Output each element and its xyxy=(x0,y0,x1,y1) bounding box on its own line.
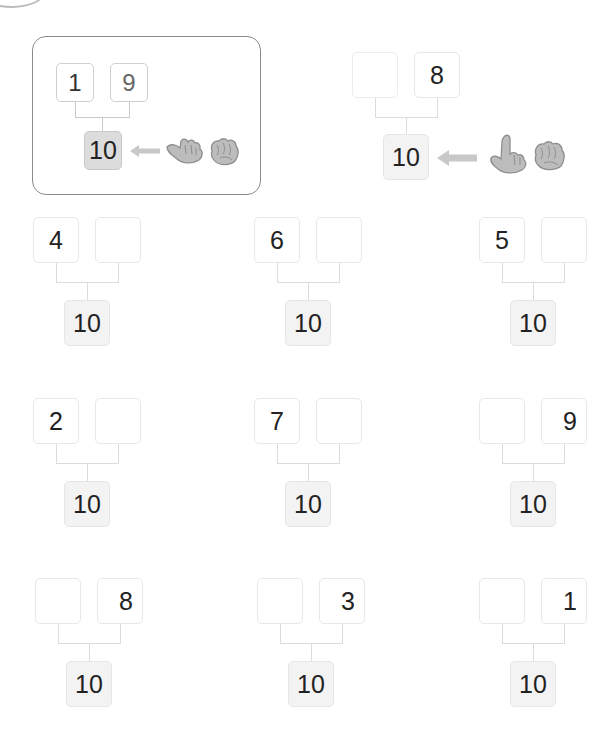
whole-box: 10 xyxy=(288,661,334,707)
part-box-right: 1 xyxy=(541,578,587,624)
connector-line xyxy=(339,444,340,464)
connector-line xyxy=(502,444,503,464)
whole-box: 10 xyxy=(64,300,110,346)
connector-line xyxy=(58,624,59,644)
whole-box: 10 xyxy=(510,481,556,527)
arrow-left-icon xyxy=(130,145,160,157)
part-box-left: 7 xyxy=(254,398,300,444)
connector-line xyxy=(339,263,340,283)
whole-box: 10 xyxy=(510,300,556,346)
part-box-left: 5 xyxy=(479,217,525,263)
answer-box-right[interactable] xyxy=(95,398,141,444)
connector-line xyxy=(375,98,376,118)
connector-line xyxy=(342,624,343,644)
connector-line xyxy=(533,282,534,300)
part-box-left: 4 xyxy=(33,217,79,263)
answer-box-right[interactable] xyxy=(541,217,587,263)
example-whole-box: 10 xyxy=(383,134,429,180)
part-box-left: 2 xyxy=(33,398,79,444)
connector-line xyxy=(308,282,309,300)
answer-box-right[interactable] xyxy=(316,398,362,444)
answer-box-left[interactable] xyxy=(257,578,303,624)
connector-line xyxy=(502,624,503,644)
connector-line xyxy=(406,117,407,134)
connector-line xyxy=(118,263,119,283)
arrow-left-icon xyxy=(437,150,477,166)
answer-box-left[interactable] xyxy=(35,578,81,624)
hand-pointing-up-icon xyxy=(488,134,530,174)
connector-line xyxy=(89,643,90,661)
answer-box-right[interactable] xyxy=(95,217,141,263)
example-frame xyxy=(32,36,261,195)
connector-line xyxy=(87,282,88,300)
example-part-box-left: 1 xyxy=(56,63,94,102)
whole-box: 10 xyxy=(285,481,331,527)
connector-line xyxy=(308,463,309,481)
hand-fist-icon xyxy=(208,137,240,167)
whole-box: 10 xyxy=(66,661,112,707)
connector-line xyxy=(533,463,534,481)
page-corner-decoration xyxy=(0,0,44,8)
connector-line xyxy=(56,444,57,464)
connector-line xyxy=(277,444,278,464)
connector-line xyxy=(437,98,438,118)
example-whole-box: 10 xyxy=(84,131,122,170)
connector-line xyxy=(280,624,281,644)
connector-line xyxy=(87,463,88,481)
connector-line xyxy=(120,624,121,644)
example-part-box-left[interactable] xyxy=(352,52,398,98)
connector-line xyxy=(118,444,119,464)
connector-line xyxy=(311,643,312,661)
hand-fist-icon xyxy=(532,140,566,172)
part-box-right: 3 xyxy=(319,578,365,624)
whole-box: 10 xyxy=(285,300,331,346)
answer-box-left[interactable] xyxy=(479,578,525,624)
connector-line xyxy=(129,102,130,118)
whole-box: 10 xyxy=(510,661,556,707)
connector-line xyxy=(564,444,565,464)
connector-line xyxy=(56,263,57,283)
part-box-right: 8 xyxy=(97,578,143,624)
answer-box-left[interactable] xyxy=(479,398,525,444)
example-part-box-right: 9 xyxy=(110,63,148,102)
connector-line xyxy=(533,643,534,661)
connector-line xyxy=(564,624,565,644)
part-box-left: 6 xyxy=(254,217,300,263)
example-part-box-right: 8 xyxy=(414,52,460,98)
connector-line xyxy=(564,263,565,283)
hand-thumb-icon xyxy=(165,137,205,165)
connector-line xyxy=(502,263,503,283)
connector-line xyxy=(75,102,76,118)
part-box-right: 9 xyxy=(541,398,587,444)
connector-line xyxy=(102,117,103,131)
connector-line xyxy=(277,263,278,283)
whole-box: 10 xyxy=(64,481,110,527)
answer-box-right[interactable] xyxy=(316,217,362,263)
